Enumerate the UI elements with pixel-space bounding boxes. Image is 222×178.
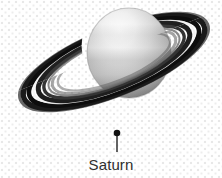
saturn-diagram: Saturn: [0, 0, 222, 178]
planet-label: Saturn: [0, 155, 222, 174]
leader-dot-icon: [114, 130, 121, 137]
saturn-artwork: [0, 0, 222, 178]
callout-leader: [114, 130, 121, 152]
